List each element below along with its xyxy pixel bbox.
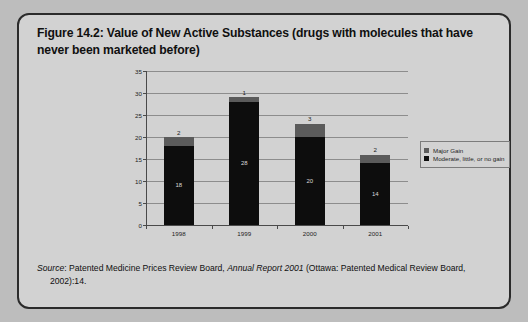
source-report-title: Annual Report 2001 [227, 263, 303, 273]
bar-inner-value-label: 14 [360, 191, 390, 197]
x-tick-mark [277, 226, 278, 229]
bar-segment-moderate-gain: 18 [164, 146, 194, 225]
bar-top-value-label: 2 [360, 146, 390, 153]
legend-item: Moderate, little, or no gain [424, 155, 505, 162]
y-tick-label: 10 [135, 178, 142, 185]
bar-segment-moderate-gain: 28 [229, 102, 259, 225]
gridline [146, 93, 408, 94]
bar-group: 218 [164, 137, 194, 225]
y-tick-label: 20 [135, 134, 142, 141]
bar-inner-value-label: 28 [229, 160, 259, 166]
bar-segment-moderate-gain: 20 [295, 137, 325, 225]
legend-item: Major Gain [424, 147, 505, 154]
x-tick-label: 1998 [172, 230, 186, 237]
y-tick-label: 5 [139, 200, 142, 207]
figure-page: Figure 14.2: Value of New Active Substan… [0, 0, 528, 322]
figure-box: Figure 14.2: Value of New Active Substan… [17, 13, 511, 309]
bar-top-value-label: 1 [229, 89, 259, 96]
bar-segment-moderate-gain: 14 [360, 163, 390, 225]
figure-title: Figure 14.2: Value of New Active Substan… [37, 25, 489, 58]
bar-segment-major-gain [164, 137, 194, 146]
legend-swatch-major-gain [424, 148, 429, 153]
x-tick-label: 2001 [368, 230, 382, 237]
bar-top-value-label: 2 [164, 129, 194, 136]
bar-group: 214 [360, 155, 390, 225]
bar-top-value-label: 3 [295, 115, 325, 122]
bar-segment-major-gain [360, 155, 390, 164]
bar-segment-major-gain [295, 124, 325, 137]
source-text-before: : Patented Medicine Prices Review Board, [64, 263, 227, 273]
x-tick-mark [212, 226, 213, 229]
gridline [146, 115, 408, 116]
x-tick-label: 1999 [237, 230, 251, 237]
chart-area: 05101520253035 218128320214 199819992000… [29, 63, 501, 256]
bar-inner-value-label: 20 [295, 178, 325, 184]
legend-swatch-moderate-gain [424, 156, 429, 161]
legend-label-moderate-gain: Moderate, little, or no gain [433, 155, 505, 162]
bar-group: 320 [295, 124, 325, 225]
source-note: Source: Patented Medicine Prices Review … [37, 262, 500, 287]
y-tick-label: 0 [139, 222, 142, 229]
x-tick-mark [146, 226, 147, 229]
bar-group: 128 [229, 97, 259, 225]
y-axis-line [146, 71, 147, 226]
plot-frame: 05101520253035 218128320214 199819992000… [146, 71, 408, 226]
chart-legend: Major Gain Moderate, little, or no gain [420, 141, 510, 168]
x-tick-mark [343, 226, 344, 229]
y-tick-label: 30 [135, 90, 142, 97]
legend-label-major-gain: Major Gain [433, 147, 463, 154]
x-tick-mark [408, 226, 409, 229]
bar-inner-value-label: 18 [164, 182, 194, 188]
y-tick-label: 25 [135, 112, 142, 119]
gridline [146, 71, 408, 72]
x-tick-label: 2000 [303, 230, 317, 237]
y-tick-label: 15 [135, 156, 142, 163]
y-tick-label: 35 [135, 68, 142, 75]
source-word: Source [37, 263, 64, 273]
